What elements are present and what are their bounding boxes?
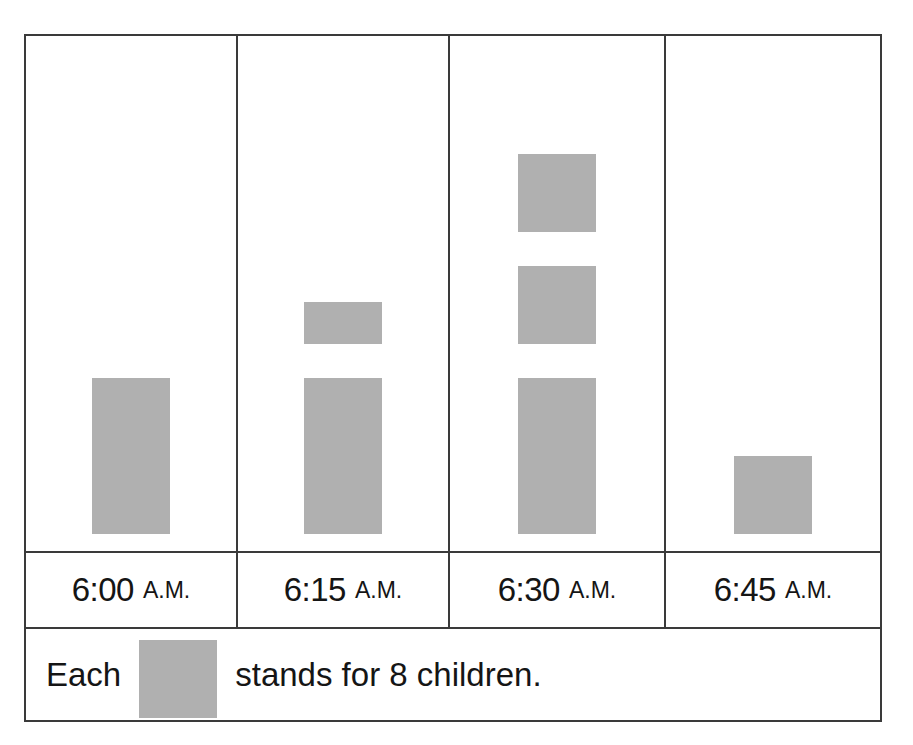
time-text: 6:00 [72, 571, 134, 609]
gray-square-half-icon [304, 302, 382, 344]
symbol-stack [92, 344, 170, 534]
pictograph-column-645 [666, 36, 880, 551]
gray-square-icon [92, 456, 170, 534]
legend-prefix-text: Each [46, 656, 121, 694]
category-label-630: 6:30A.M. [450, 553, 666, 627]
gray-square-icon [304, 456, 382, 534]
pictograph-column-630 [450, 36, 666, 551]
legend-row: Each stands for 8 children. [26, 627, 880, 720]
pictograph-column-615 [238, 36, 450, 551]
gray-square-icon [304, 378, 382, 456]
gray-square-icon [518, 378, 596, 456]
time-text: 6:30 [498, 571, 560, 609]
meridiem-text: A.M. [785, 577, 832, 604]
pictograph-column-600 [26, 36, 238, 551]
symbol-stack [734, 456, 812, 534]
time-text: 6:15 [284, 571, 346, 609]
category-label-600: 6:00A.M. [26, 553, 238, 627]
category-label-645: 6:45A.M. [666, 553, 880, 627]
meridiem-text: A.M. [355, 577, 402, 604]
pictograph-plot-area [26, 36, 880, 551]
pictograph-table: 6:00A.M.6:15A.M.6:30A.M.6:45A.M. Each st… [24, 34, 882, 722]
time-text: 6:45 [714, 571, 776, 609]
symbol-stack [304, 268, 382, 534]
gray-square-icon [518, 456, 596, 534]
gray-square-icon [518, 154, 596, 232]
legend-symbol-swatch [139, 640, 217, 718]
category-label-615: 6:15A.M. [238, 553, 450, 627]
gray-square-icon [518, 266, 596, 344]
symbol-stack [518, 120, 596, 534]
legend-suffix-text: stands for 8 children. [235, 656, 541, 694]
meridiem-text: A.M. [569, 577, 616, 604]
category-label-row: 6:00A.M.6:15A.M.6:30A.M.6:45A.M. [26, 551, 880, 627]
gray-square-icon [734, 456, 812, 534]
meridiem-text: A.M. [143, 577, 190, 604]
gray-square-icon [92, 378, 170, 456]
